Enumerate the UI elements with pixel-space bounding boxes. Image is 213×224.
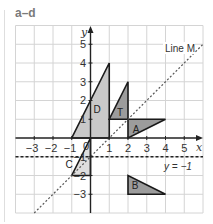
y-minus-1-label: y = −1 — [163, 161, 192, 172]
svg-text:−2: −2 — [73, 170, 86, 182]
svg-text:5: 5 — [80, 38, 86, 50]
svg-text:2: 2 — [125, 142, 131, 154]
y-axis-label: y — [80, 26, 88, 39]
svg-text:5: 5 — [181, 142, 187, 154]
svg-text:3: 3 — [80, 76, 86, 88]
label-D: D — [93, 104, 100, 115]
x-tick-labels: −3 −2 −1 0 1 2 3 4 5 — [26, 140, 188, 154]
svg-text:1: 1 — [80, 113, 86, 125]
label-B: B — [132, 180, 139, 191]
line-m — [34, 44, 203, 213]
y-axis-arrow-icon — [88, 26, 94, 33]
line-m-label: Line M — [165, 43, 195, 54]
svg-text:−1: −1 — [73, 151, 86, 163]
label-A: A — [133, 124, 140, 135]
svg-text:3: 3 — [144, 142, 150, 154]
svg-text:−3: −3 — [26, 142, 39, 154]
svg-text:4: 4 — [80, 57, 86, 69]
label-T: T — [117, 107, 123, 118]
svg-text:4: 4 — [162, 142, 168, 154]
svg-text:2: 2 — [80, 94, 86, 106]
coordinate-diagram: −3 −2 −1 0 1 2 3 4 5 x 5 4 3 2 1 −1 −2 −… — [0, 0, 213, 224]
svg-text:1: 1 — [106, 142, 112, 154]
x-axis-label: x — [196, 141, 203, 154]
svg-text:−2: −2 — [45, 142, 58, 154]
label-C: C — [65, 159, 72, 170]
svg-text:−3: −3 — [73, 188, 86, 200]
